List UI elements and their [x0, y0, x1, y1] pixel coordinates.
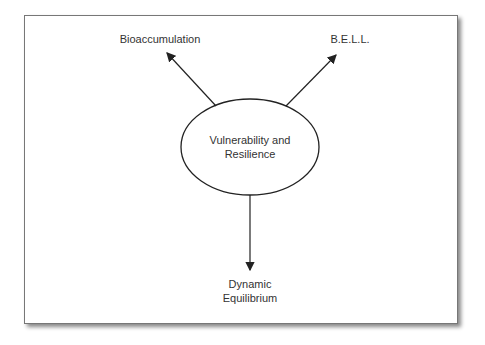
node-dynamic-line1: Dynamic: [200, 277, 300, 291]
center-node-line1: Vulnerability and: [190, 133, 310, 147]
arrow-to-bioaccumulation: [167, 53, 216, 106]
center-node-label: Vulnerability and Resilience: [190, 133, 310, 161]
node-dynamic-line2: Equilibrium: [200, 291, 300, 305]
arrow-to-bell: [286, 55, 336, 106]
node-bell: B.E.L.L.: [310, 32, 390, 46]
node-dynamic-equilibrium: Dynamic Equilibrium: [200, 277, 300, 305]
node-bioaccumulation: Bioaccumulation: [105, 32, 215, 46]
center-node-line2: Resilience: [190, 147, 310, 161]
